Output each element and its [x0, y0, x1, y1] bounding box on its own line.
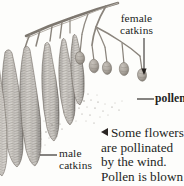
label-male-catkins: male catkins [59, 148, 92, 172]
caption-line-3: by the wind. [101, 155, 184, 170]
caption-line-2: are pollinated [101, 141, 184, 156]
caption-line-1: Some flowers [101, 126, 184, 141]
caption-triangle-icon [101, 128, 108, 136]
caption-line-4: Pollen is blown [101, 170, 184, 185]
label-female-catkins: female catkins [120, 13, 153, 37]
female-catkins [75, 34, 148, 82]
figure-panel: female catkins pollen male catkins Some … [0, 0, 184, 186]
label-female-catkins-line2: catkins [120, 25, 153, 37]
label-male-catkins-line2: catkins [59, 160, 92, 172]
caption-line-1-text: Some flowers [111, 125, 184, 140]
label-pollen: pollen [155, 93, 184, 105]
caption-block: Some flowers are pollinated by the wind.… [101, 126, 184, 184]
